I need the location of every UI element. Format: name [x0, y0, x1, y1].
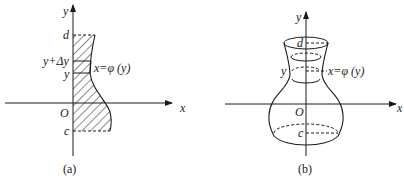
origin-label: O: [295, 105, 304, 119]
bottom-label-c: c: [64, 124, 70, 138]
y-axis-label: y: [295, 10, 302, 24]
bottom-label-c: c: [298, 126, 304, 140]
x-axis-label: x: [396, 101, 403, 115]
y-axis-label: y: [62, 4, 69, 18]
vase-left-outline: [269, 43, 290, 136]
top-label-d: d: [63, 28, 70, 42]
caption-b: (b): [298, 162, 312, 176]
slice-label-y: y: [280, 64, 287, 78]
diagram-canvas: y x d y+Δy y x=φ (y) O c (a) y x d y x: [0, 0, 404, 182]
strip-bottom-label: y: [63, 67, 70, 81]
curve-label: x=φ (y): [327, 64, 364, 78]
strip-top-label: y+Δy: [42, 54, 69, 68]
top-label-d: d: [297, 36, 304, 50]
caption-a: (a): [63, 162, 76, 176]
panel-a: y x d y+Δy y x=φ (y) O c (a): [5, 4, 186, 176]
origin-label: O: [60, 106, 69, 120]
vase-right-outline: [322, 43, 343, 136]
curve-label: x=φ (y): [93, 61, 130, 75]
x-axis-label: x: [179, 101, 186, 115]
panel-b: y x d y x=φ (y) O c (b): [225, 10, 403, 176]
